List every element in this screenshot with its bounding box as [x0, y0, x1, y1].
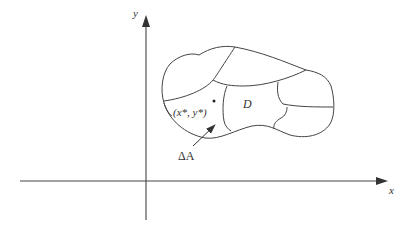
- partition-lines: [164, 47, 333, 131]
- y-axis-arrow-icon: [142, 15, 150, 27]
- delta-a-label: ΔA: [178, 150, 194, 162]
- y-axis-label: y: [133, 8, 138, 19]
- x-axis-label: x: [389, 185, 394, 196]
- region-d-label: D: [243, 98, 252, 110]
- region-d-boundary: [162, 46, 334, 138]
- x-axis-arrow-icon: [376, 177, 388, 185]
- y-axis: [142, 15, 150, 220]
- x-axis: [20, 177, 388, 185]
- sample-point-dot: [213, 100, 216, 103]
- diagram-canvas: [0, 0, 406, 238]
- sample-point-label: (x*, y*): [173, 107, 207, 118]
